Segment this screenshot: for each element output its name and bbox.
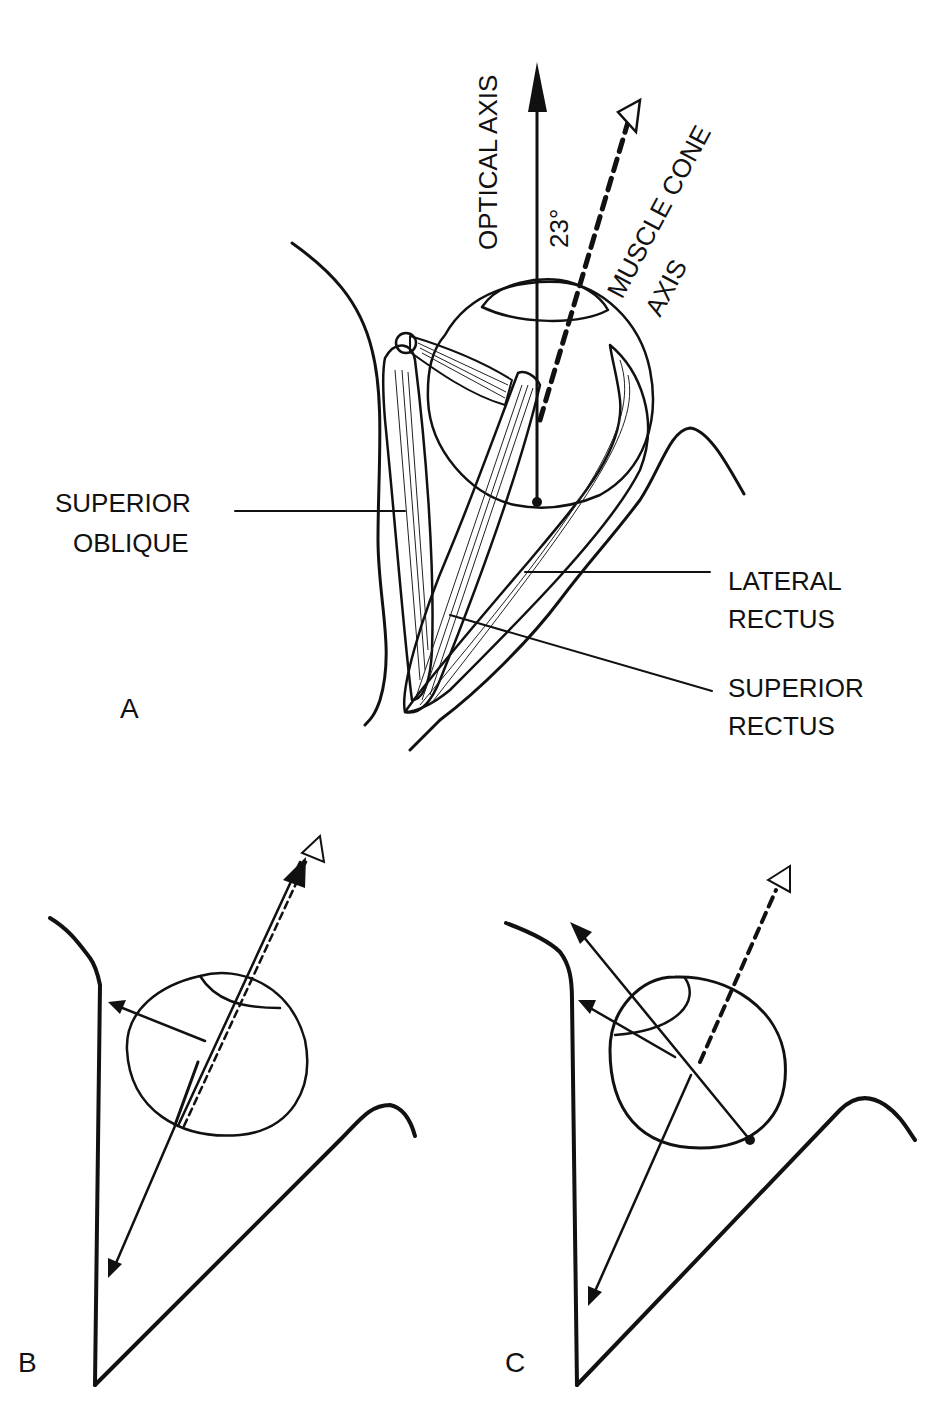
orbit-medial-wall bbox=[292, 243, 386, 725]
muscle-cone-axis-b bbox=[184, 862, 306, 1126]
cornea-c bbox=[615, 978, 690, 1035]
panel-label-c: C bbox=[505, 1347, 525, 1378]
optical-axis-arrowhead-icon bbox=[528, 62, 547, 112]
panel-c: C bbox=[505, 866, 915, 1385]
optical-axis-c bbox=[578, 930, 750, 1140]
pull-vector-b-arrowhead-icon bbox=[108, 1258, 122, 1278]
angle-label: 23° bbox=[544, 209, 574, 248]
optical-axis-label: OPTICAL AXIS bbox=[473, 75, 503, 250]
pull-vector-c-arrowhead-icon bbox=[588, 1286, 602, 1306]
label-superior-rectus-1: SUPERIOR bbox=[728, 673, 864, 703]
panel-label-a: A bbox=[120, 693, 139, 724]
torsion-vector-c-arrowhead-icon bbox=[578, 1000, 596, 1014]
label-superior-rectus-2: RECTUS bbox=[728, 711, 835, 741]
cornea bbox=[482, 279, 608, 320]
muscle-cone-axis-c bbox=[700, 890, 776, 1062]
lateral-rectus-muscle bbox=[405, 345, 648, 712]
muscle-cone-c-arrowhead-icon bbox=[768, 866, 790, 892]
label-lateral-rectus-1: LATERAL bbox=[728, 566, 842, 596]
pull-vector-c bbox=[592, 1075, 691, 1298]
pull-vector-b bbox=[113, 1126, 175, 1270]
orbit-c-medial bbox=[506, 923, 577, 1385]
axis-b-thick-segment bbox=[175, 1062, 198, 1125]
optical-axis-b-arrowhead-icon bbox=[283, 857, 306, 888]
label-superior-oblique-2: OBLIQUE bbox=[73, 528, 189, 558]
label-lateral-rectus-2: RECTUS bbox=[728, 604, 835, 634]
orbit-lateral-wall bbox=[410, 428, 744, 750]
panel-label-b: B bbox=[18, 1347, 37, 1378]
panel-a: OPTICAL AXIS 23° MUSCLE CONE AXIS SUPERI… bbox=[55, 62, 864, 750]
orbit-b-lateral bbox=[95, 1105, 415, 1385]
axis-origin-dot bbox=[532, 497, 542, 507]
figure-canvas: OPTICAL AXIS 23° MUSCLE CONE AXIS SUPERI… bbox=[0, 0, 936, 1404]
superior-oblique-muscle bbox=[383, 345, 432, 700]
optical-axis-b bbox=[178, 862, 300, 1126]
orbit-b-medial bbox=[50, 918, 100, 1385]
panel-b: B bbox=[18, 836, 415, 1385]
optical-axis-c-arrowhead-icon bbox=[570, 922, 592, 944]
label-superior-oblique-1: SUPERIOR bbox=[55, 488, 191, 518]
axis-c-origin-dot bbox=[745, 1135, 755, 1145]
